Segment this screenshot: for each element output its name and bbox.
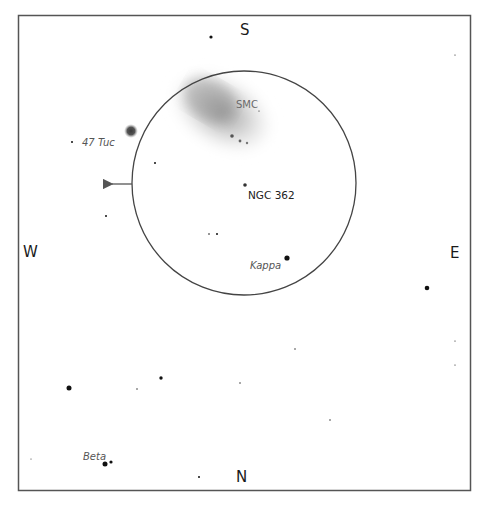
ngc362-cluster-icon[interactable] — [243, 183, 247, 187]
star-icon — [31, 459, 32, 460]
star-icon — [294, 348, 295, 349]
star-icon — [239, 382, 240, 383]
star-chart: S N W E SMC 47 Tuc NGC 362 Kappa Beta — [0, 0, 481, 513]
cardinal-north: N — [236, 468, 247, 486]
star-icon — [239, 140, 242, 143]
star-icon — [198, 476, 200, 478]
star-icon — [216, 233, 218, 235]
star-icon — [105, 215, 107, 217]
star-icon — [154, 162, 156, 164]
star-icon — [329, 419, 330, 420]
cardinal-east: E — [450, 244, 459, 262]
star-icon — [209, 35, 212, 38]
star-icon — [71, 141, 73, 143]
star-icon — [425, 286, 430, 291]
label-smc: SMC — [236, 99, 258, 110]
star-icon — [67, 386, 72, 391]
star-icon — [284, 255, 289, 260]
star-icon — [103, 462, 108, 467]
star-icon — [258, 110, 259, 111]
star-icon — [454, 54, 455, 55]
cardinal-south: S — [240, 21, 250, 39]
cardinal-west: W — [23, 243, 38, 261]
label-beta: Beta — [83, 451, 106, 462]
star-icon — [159, 376, 162, 379]
label-ngc362: NGC 362 — [248, 189, 295, 201]
star-icon — [246, 142, 248, 144]
star-icon — [109, 460, 112, 463]
star-icon — [230, 134, 234, 138]
tuc47-cluster-icon[interactable] — [124, 124, 138, 138]
star-icon — [136, 388, 137, 389]
star-icon — [454, 364, 455, 365]
label-47-tuc: 47 Tuc — [82, 137, 115, 148]
label-kappa: Kappa — [250, 260, 281, 271]
star-icon — [208, 233, 210, 235]
star-icon — [454, 340, 455, 341]
